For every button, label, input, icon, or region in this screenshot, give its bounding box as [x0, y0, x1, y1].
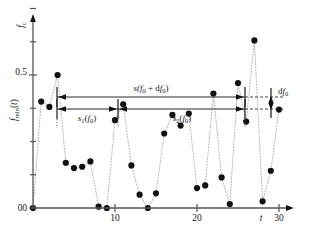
x-tick-label-20: 20 [192, 213, 202, 223]
data-point [161, 130, 167, 136]
y-axis-arrowhead [30, 14, 36, 22]
y-tick-label-half: 0.5 [15, 67, 27, 77]
y-tick-label-0: 0 [22, 203, 27, 213]
series-connector-lines [33, 40, 279, 208]
y-axis-unit-label: fc [16, 22, 27, 28]
data-point [137, 192, 143, 198]
data-point [120, 101, 126, 107]
data-point [128, 162, 134, 168]
svg-text:fc: fc [16, 22, 27, 28]
data-point [38, 99, 44, 105]
data-point [87, 158, 93, 164]
span-s1-right-arrowhead [109, 106, 117, 112]
data-point [268, 168, 274, 174]
data-point [112, 117, 118, 123]
x-axis-label: t [260, 213, 263, 223]
data-point [227, 201, 233, 207]
span-top-right-arrowhead [236, 94, 244, 100]
data-point [276, 106, 282, 112]
annotation-span-top: s(f0 + df0) [57, 83, 245, 107]
span-s1-left-arrowhead [58, 106, 66, 112]
svg-text:fmin(t): fmin(t) [9, 99, 20, 121]
data-point [55, 72, 61, 78]
data-point [243, 118, 249, 124]
data-point [210, 91, 216, 97]
y-axis-label-close: ) [9, 99, 20, 102]
data-point [79, 164, 85, 170]
data-point [153, 190, 159, 196]
data-point [63, 160, 69, 166]
span-s2-label: s2(f0) [173, 113, 192, 124]
y-axis-unit-c: c [20, 22, 27, 25]
x-axis-arrowhead [286, 205, 294, 211]
data-point-markers [30, 37, 282, 211]
df0-label: df0 [278, 86, 288, 97]
data-point [202, 182, 208, 188]
data-point [96, 204, 102, 210]
scatter-plot: 0 0.5 0 10 20 30 t fmin(t) fc [0, 0, 309, 235]
data-point [46, 104, 52, 110]
span-top-label: s(f0 + df0) [133, 83, 168, 94]
data-point [194, 185, 200, 191]
series-connector [33, 40, 279, 208]
x-tick-label-30: 30 [274, 213, 284, 223]
data-point [251, 37, 257, 43]
y-axis-label: fmin(t) [9, 99, 20, 121]
annotation-df0: df0 [245, 86, 288, 118]
x-tick-label-10: 10 [110, 213, 120, 223]
data-point [219, 174, 225, 180]
x-tick-label-0: 0 [18, 203, 23, 213]
span-s1-label: s1(f0) [78, 113, 97, 124]
data-point [235, 80, 241, 86]
span-s2-right-arrowhead [236, 106, 244, 112]
data-point [260, 198, 266, 204]
data-point [71, 165, 77, 171]
figure-container: 0 0.5 0 10 20 30 t fmin(t) fc [0, 0, 309, 235]
